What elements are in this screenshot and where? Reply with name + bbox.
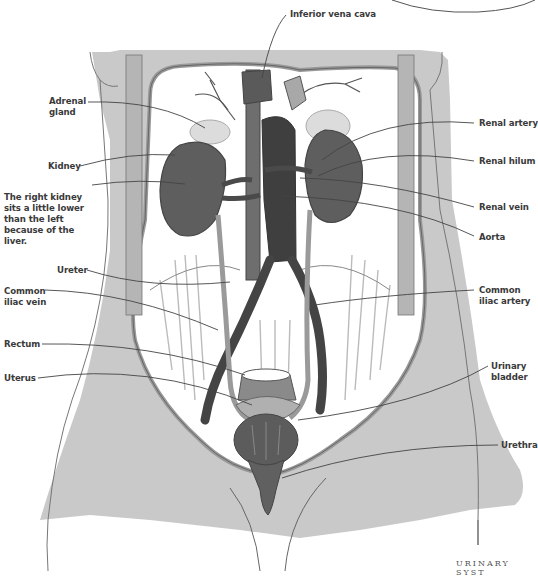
label-common-iliac-vein: Common iliac vein bbox=[4, 286, 52, 308]
label-aorta: Aorta bbox=[479, 232, 505, 243]
label-urethra: Urethra bbox=[501, 440, 538, 451]
label-kidney: Kidney bbox=[48, 161, 81, 172]
label-renal-artery: Renal artery bbox=[479, 118, 538, 129]
label-renal-vein: Renal vein bbox=[479, 202, 529, 213]
label-inferior-vena-cava: Inferior vena cava bbox=[290, 9, 376, 20]
label-common-iliac-artery: Common iliac artery bbox=[479, 285, 537, 307]
label-adrenal-gland: Adrenal gland bbox=[49, 96, 89, 118]
label-urinary-bladder: Urinary bladder bbox=[491, 361, 537, 383]
top-curve bbox=[392, 0, 535, 12]
footer-title: URINARY SYST bbox=[456, 559, 537, 577]
label-renal-hilum: Renal hilum bbox=[479, 156, 535, 167]
left-kidney bbox=[305, 130, 363, 223]
label-uterus: Uterus bbox=[4, 373, 36, 384]
label-rectum: Rectum bbox=[4, 339, 40, 350]
label-ureter: Ureter bbox=[57, 265, 88, 276]
label-right-kidney-note: The right kidney sits a little lower tha… bbox=[4, 192, 90, 247]
